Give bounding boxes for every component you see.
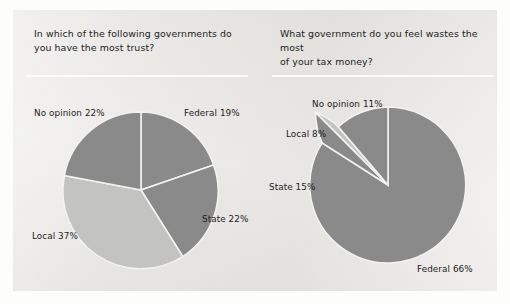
pie-slice-no-opinion xyxy=(64,112,141,190)
slice-label-state-waste: State 15% xyxy=(269,182,315,193)
slice-label-federal-waste: Federal 66% xyxy=(417,264,473,275)
slice-label-local-trust: Local 37% xyxy=(32,231,78,242)
slice-label-no-opinion-waste: No opinion 11% xyxy=(312,99,383,110)
panel-divider-left xyxy=(25,75,248,77)
question-title-trust: In which of the following governments do… xyxy=(34,27,249,55)
slice-label-federal-trust: Federal 19% xyxy=(184,108,240,119)
pie-slices-waste xyxy=(310,107,466,263)
chart-panel-waste: What government do you feel wastes the m… xyxy=(260,10,497,291)
pie-slices-trust xyxy=(63,112,218,269)
slice-label-no-opinion-trust: No opinion 22% xyxy=(34,108,105,119)
figure-root: In which of the following governments do… xyxy=(0,0,510,304)
panel-divider-right xyxy=(272,75,494,77)
chart-panel-trust: In which of the following governments do… xyxy=(13,10,260,291)
slice-label-local-waste: Local 8% xyxy=(286,129,326,140)
question-title-waste: What government do you feel wastes the m… xyxy=(280,27,492,70)
slice-label-state-trust: State 22% xyxy=(202,214,248,225)
